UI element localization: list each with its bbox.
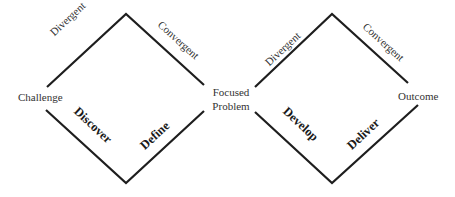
double-diamond-diagram: Challenge Focused Problem Outcome Diverg… xyxy=(0,0,455,197)
node-focused-problem: Focused Problem xyxy=(209,87,253,112)
node-outcome: Outcome xyxy=(398,91,438,102)
node-challenge: Challenge xyxy=(18,92,63,103)
node-focused-problem-line2: Problem xyxy=(209,101,253,112)
diamond1-bottom-edges xyxy=(46,110,204,183)
diamond1-top-edges xyxy=(47,14,204,87)
node-focused-problem-line1: Focused xyxy=(209,87,253,98)
diamond2-bottom-edges xyxy=(255,105,418,183)
